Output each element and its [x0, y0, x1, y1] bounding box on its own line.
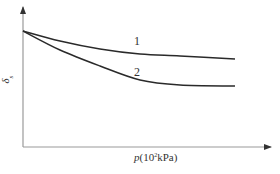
y-axis-label-sub: s: [7, 76, 15, 79]
chart-canvas: 1 2: [0, 0, 280, 174]
curve-2-label: 2: [134, 65, 140, 79]
curve-1-label: 1: [134, 34, 140, 48]
y-axis-label-main: δ: [0, 78, 11, 83]
x-axis-label-open: (10: [140, 151, 155, 163]
y-axis-label: δs: [0, 76, 15, 84]
curve-1-line: [23, 31, 235, 59]
x-axis-label: p(102kPa): [134, 151, 177, 163]
x-axis-label-unit: kPa): [157, 151, 177, 163]
